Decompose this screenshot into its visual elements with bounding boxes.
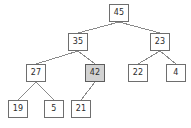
tree-node-label: 19 <box>13 105 24 113</box>
tree-edge <box>78 22 119 33</box>
tree-node-label: 5 <box>51 105 56 113</box>
tree-node[interactable]: 42 <box>85 64 105 82</box>
tree-node[interactable]: 45 <box>109 4 129 22</box>
tree-node[interactable]: 23 <box>150 33 170 51</box>
tree-edge <box>78 51 95 64</box>
tree-node[interactable]: 5 <box>44 100 64 118</box>
tree-node-label: 42 <box>90 69 101 77</box>
tree-edge <box>36 82 54 100</box>
tree-edge <box>160 51 176 64</box>
tree-node-label: 23 <box>155 38 166 46</box>
tree-node-label: 21 <box>76 105 87 113</box>
tree-node[interactable]: 22 <box>128 64 148 82</box>
tree-node-label: 35 <box>73 38 84 46</box>
tree-node-label: 27 <box>31 69 42 77</box>
tree-edge <box>138 51 160 64</box>
tree-node[interactable]: 35 <box>68 33 88 51</box>
tree-node[interactable]: 19 <box>8 100 28 118</box>
tree-edge <box>18 82 36 100</box>
binary-tree-diagram: 453523274222419521 <box>0 0 191 128</box>
tree-node[interactable]: 21 <box>71 100 91 118</box>
tree-node-label: 4 <box>173 69 178 77</box>
tree-node[interactable]: 27 <box>26 64 46 82</box>
tree-edge <box>81 82 95 100</box>
tree-edge <box>36 51 78 64</box>
tree-node-label: 22 <box>133 69 144 77</box>
tree-edge <box>119 22 160 33</box>
tree-node-label: 45 <box>114 9 125 17</box>
tree-node[interactable]: 4 <box>166 64 186 82</box>
